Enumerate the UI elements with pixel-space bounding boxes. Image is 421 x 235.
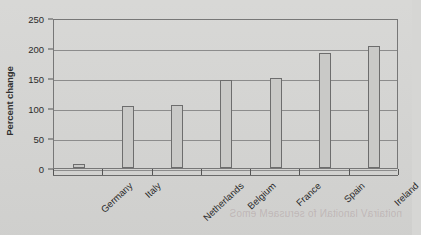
x-tick-mark (250, 169, 251, 175)
y-tick-label: 50 (0, 134, 44, 145)
x-tick-label: Ireland (392, 180, 421, 208)
x-tick-label: Germany (99, 180, 135, 215)
gridline (54, 170, 397, 171)
x-tick-label: Belgium (246, 180, 279, 211)
y-tick-label: 100 (0, 104, 44, 115)
x-tick-label: Netherlands (201, 180, 246, 223)
x-tick-mark (398, 169, 399, 175)
y-tick-label: 0 (0, 164, 44, 175)
plot-area (53, 19, 398, 169)
y-tick-label: 250 (0, 14, 44, 25)
y-tick-label: 200 (0, 44, 44, 55)
bar-slot (202, 20, 251, 168)
bar-slot (54, 20, 103, 168)
x-tick-label: Spain (341, 180, 366, 205)
x-tick-mark (53, 169, 54, 175)
bar[interactable] (368, 46, 380, 168)
x-axis-line (53, 175, 398, 176)
x-tick-label: Italy (142, 180, 162, 200)
bar[interactable] (122, 106, 134, 168)
bar[interactable] (73, 164, 85, 168)
bar-series (54, 20, 397, 168)
bar-slot (103, 20, 152, 168)
bar[interactable] (171, 105, 183, 168)
x-tick-label: France (294, 180, 323, 208)
bar-slot (350, 20, 399, 168)
bar[interactable] (270, 78, 282, 168)
bar-slot (300, 20, 349, 168)
bar[interactable] (319, 53, 331, 168)
y-tick-label: 150 (0, 74, 44, 85)
x-tick-mark (349, 169, 350, 175)
x-tick-mark (102, 169, 103, 175)
x-tick-mark (201, 169, 202, 175)
x-tick-mark (299, 169, 300, 175)
bar[interactable] (220, 80, 232, 168)
bar-slot (153, 20, 202, 168)
x-tick-mark (152, 169, 153, 175)
bar-slot (251, 20, 300, 168)
